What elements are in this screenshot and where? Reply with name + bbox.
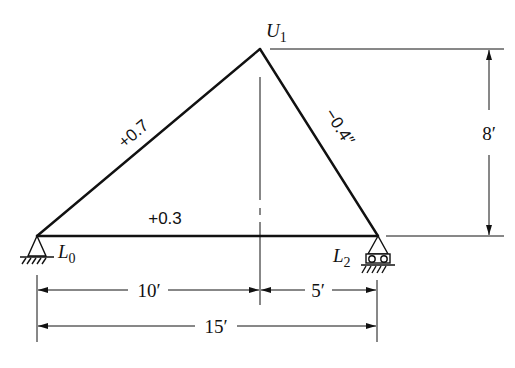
height-dimension-label: 8′ <box>482 123 496 144</box>
height-dimension <box>270 49 504 236</box>
member-label-l0-u1: +0.7 <box>115 116 153 152</box>
truss-members <box>37 49 378 236</box>
pin-support-icon <box>20 236 54 264</box>
right-span-label: 5′ <box>311 280 325 301</box>
member-u1-l2 <box>260 49 378 236</box>
joint-label-u1: U1 <box>266 20 287 45</box>
roller-support-icon <box>361 236 395 273</box>
member-l0-u1 <box>37 49 260 236</box>
member-label-u1-l2: −0.4″ <box>321 105 358 149</box>
joint-label-l2: L2 <box>332 245 351 270</box>
member-label-l0-l2: +0.3 <box>148 209 182 228</box>
truss-diagram: +0.7 −0.4″ +0.3 U1 L0 L2 8′ <box>0 0 515 368</box>
total-span-label: 15′ <box>204 316 227 337</box>
left-span-label: 10′ <box>137 280 160 301</box>
joint-label-l0: L0 <box>57 241 76 266</box>
